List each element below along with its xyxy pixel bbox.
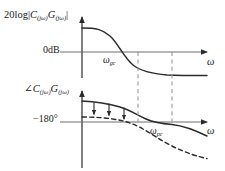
- magnitude-omega-axis-label: ω: [207, 57, 214, 68]
- phase-axis-g-subscript: (jω): [58, 88, 69, 95]
- magnitude-axis-c-subscript: (jω): [37, 14, 48, 21]
- magnitude-plot-group: [60, 17, 207, 78]
- magnitude-axis-g-subscript: (jω): [55, 14, 66, 21]
- phase-axis-label: ∠C(jω)G(jω): [24, 84, 69, 95]
- uncompensated-phase-curve: [82, 117, 207, 159]
- gain-crossover-label: ωgc: [103, 56, 116, 66]
- phase-crossover-label: ωpc: [150, 127, 163, 137]
- magnitude-axis-label: 20log|C(jω)G(jω)|: [4, 10, 68, 21]
- magnitude-axis-suffix: |: [66, 9, 68, 20]
- phase-axis-c-symbol: C: [33, 83, 40, 94]
- gain-crossover-symbol: ω: [103, 55, 110, 65]
- magnitude-axis-prefix: 20log|: [4, 9, 30, 20]
- minus-180-degree-label: −180°: [33, 114, 58, 124]
- angle-icon: ∠: [24, 83, 33, 94]
- magnitude-axis-c-symbol: C: [30, 9, 37, 20]
- bode-plot-figure: 20log|C(jω)G(jω)| 0dB ω ωgc ∠C(jω)G(jω) …: [0, 0, 225, 171]
- compensated-phase-curve: [82, 101, 207, 136]
- zero-db-label: 0dB: [43, 45, 60, 55]
- phase-crossover-symbol: ω: [150, 126, 157, 136]
- phase-crossover-subscript: pc: [157, 130, 163, 137]
- phase-axis-c-subscript: (jω): [40, 88, 51, 95]
- phase-omega-axis-label: ω: [207, 126, 214, 137]
- gain-crossover-subscript: gc: [110, 59, 116, 66]
- phase-plot-group: [60, 91, 207, 168]
